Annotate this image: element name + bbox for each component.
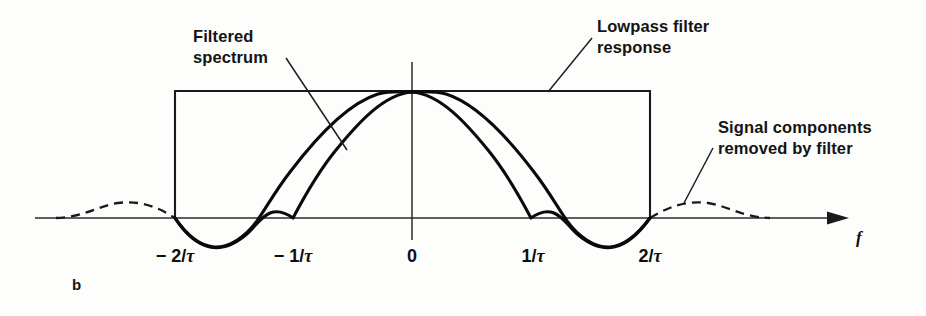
tick-sign: − bbox=[156, 246, 172, 266]
frequency-axis-label: f bbox=[856, 228, 864, 247]
annotation-removed-components-line2: removed by filter bbox=[718, 139, 853, 157]
leader-lowpass-filter-response bbox=[548, 38, 592, 92]
tick-tau: τ bbox=[654, 246, 663, 266]
leader-signal-components-removed bbox=[684, 148, 713, 203]
frequency-axis-arrowhead bbox=[827, 212, 849, 225]
tick-num: 1/ bbox=[521, 246, 536, 266]
tick-label-neg-two-over-tau: − 2/τ bbox=[156, 246, 196, 266]
annotation-lowpass-filter-line2: response bbox=[597, 38, 671, 56]
tick-tau: τ bbox=[304, 246, 313, 266]
panel-label-b: b bbox=[72, 276, 81, 293]
removed-sidelobe-left bbox=[56, 202, 175, 218]
filter-spectrum-diagram: Filtered spectrum Lowpass filter respons… bbox=[0, 0, 926, 316]
tick-tau: τ bbox=[186, 246, 195, 266]
removed-sidelobe-right bbox=[650, 202, 770, 218]
tick-label-pos-two-over-tau: 2/τ bbox=[638, 246, 662, 266]
tick-label-pos-one-over-tau: 1/τ bbox=[521, 246, 545, 266]
figure-container: Filtered spectrum Lowpass filter respons… bbox=[0, 0, 926, 316]
annotation-removed-components-line1: Signal components bbox=[718, 118, 872, 136]
tick-num: 0 bbox=[407, 246, 417, 266]
tick-num: 2/ bbox=[171, 246, 186, 266]
tick-sign: − bbox=[274, 246, 290, 266]
tick-label-zero: 0 bbox=[407, 246, 417, 266]
leader-filtered-spectrum bbox=[286, 58, 347, 150]
annotation-filtered-spectrum-line2: spectrum bbox=[193, 48, 268, 66]
annotation-filtered-spectrum-line1: Filtered bbox=[193, 27, 253, 45]
tick-label-neg-one-over-tau: − 1/τ bbox=[274, 246, 314, 266]
tick-tau: τ bbox=[537, 246, 546, 266]
annotation-lowpass-filter-line1: Lowpass filter bbox=[597, 17, 710, 35]
tick-num: 1/ bbox=[289, 246, 304, 266]
tick-num: 2/ bbox=[638, 246, 653, 266]
